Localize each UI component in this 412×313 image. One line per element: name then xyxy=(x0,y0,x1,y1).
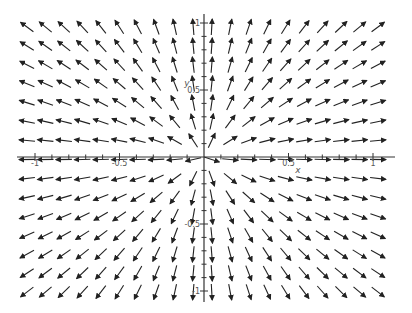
field-arrow xyxy=(210,190,213,206)
field-arrow xyxy=(315,213,329,220)
field-arrow xyxy=(94,79,107,88)
field-arrow xyxy=(243,192,255,203)
field-arrow xyxy=(153,58,160,72)
field-arrow xyxy=(172,76,178,91)
field-arrow xyxy=(150,117,163,127)
field-arrow xyxy=(246,266,252,281)
x-tick-label: 1 xyxy=(370,159,375,168)
field-arrow xyxy=(19,120,35,123)
field-arrow xyxy=(211,208,213,224)
field-arrow xyxy=(75,140,91,142)
field-arrow xyxy=(96,40,107,52)
field-arrow xyxy=(298,230,311,240)
field-arrow xyxy=(208,133,215,148)
field-arrow xyxy=(245,77,253,91)
field-arrow xyxy=(56,120,71,124)
field-arrow xyxy=(75,100,90,107)
field-arrow xyxy=(130,176,145,181)
field-arrow xyxy=(264,285,271,299)
x-tick-label: -0.5 xyxy=(112,159,128,168)
field-arrow xyxy=(20,61,34,68)
field-arrow xyxy=(296,139,312,142)
y-tick-label: 1 xyxy=(195,19,200,28)
field-arrow xyxy=(297,99,311,107)
field-arrow xyxy=(172,228,178,243)
field-arrow xyxy=(370,178,386,180)
field-arrow xyxy=(370,120,386,123)
field-arrow xyxy=(352,195,368,199)
field-arrow xyxy=(170,191,179,204)
field-arrow xyxy=(76,231,89,240)
field-arrow xyxy=(77,41,89,52)
field-arrow xyxy=(76,60,89,70)
field-arrow xyxy=(298,249,309,260)
field-arrow xyxy=(115,267,124,280)
field-arrow xyxy=(151,210,161,222)
field-arrow xyxy=(95,230,108,240)
field-arrow xyxy=(242,117,255,127)
field-arrow xyxy=(57,61,70,70)
field-arrow xyxy=(297,194,312,200)
field-arrow xyxy=(352,213,367,219)
field-arrow xyxy=(222,159,238,161)
field-arrow xyxy=(315,119,330,124)
x-axis-label: x xyxy=(294,165,301,175)
field-arrow xyxy=(244,97,254,109)
field-arrow xyxy=(280,78,292,89)
field-arrow xyxy=(223,136,237,145)
field-arrow xyxy=(352,80,367,87)
field-arrow xyxy=(227,209,233,224)
field-arrow xyxy=(334,213,349,219)
field-arrow xyxy=(115,40,125,53)
field-arrow xyxy=(21,287,34,297)
field-arrow xyxy=(19,196,35,200)
field-arrow xyxy=(263,266,271,280)
vector-field-plot: -1-0.50.5110.5-0.5-1xy xyxy=(0,0,412,313)
field-arrow xyxy=(228,57,232,72)
field-arrow xyxy=(170,116,180,128)
field-arrow xyxy=(134,285,141,299)
field-arrow xyxy=(224,173,236,183)
field-arrow xyxy=(132,211,144,222)
field-arrow xyxy=(244,210,254,223)
y-tick-label: -0.5 xyxy=(184,220,200,229)
field-arrow xyxy=(370,140,386,142)
field-arrow xyxy=(58,41,70,51)
field-arrow xyxy=(56,195,71,200)
field-arrow xyxy=(193,38,195,54)
field-arrow xyxy=(133,58,142,71)
field-arrow xyxy=(335,286,346,297)
field-arrow xyxy=(19,178,35,180)
field-arrow xyxy=(152,228,160,242)
field-arrow xyxy=(245,228,253,242)
field-arrow xyxy=(261,211,273,222)
field-arrow xyxy=(39,61,53,69)
field-arrow xyxy=(299,286,309,299)
field-arrow xyxy=(38,140,54,142)
field-arrow xyxy=(280,59,291,71)
field-arrow xyxy=(228,228,233,243)
field-arrow xyxy=(297,212,311,220)
field-arrow xyxy=(38,120,54,124)
field-arrow xyxy=(370,214,385,219)
field-arrow xyxy=(260,118,274,126)
field-arrow xyxy=(153,247,160,261)
field-arrow xyxy=(93,177,109,180)
field-arrow xyxy=(19,214,34,219)
field-arrow xyxy=(95,249,107,260)
field-arrow xyxy=(77,268,89,279)
field-arrow xyxy=(229,19,232,35)
field-arrow xyxy=(112,139,128,142)
field-arrow xyxy=(130,159,146,160)
field-arrow xyxy=(154,20,160,35)
field-arrow xyxy=(38,195,54,199)
field-arrow xyxy=(352,140,368,142)
field-arrow xyxy=(372,22,385,32)
field-arrow xyxy=(316,249,328,259)
field-arrow xyxy=(211,76,213,92)
field-arrow xyxy=(134,20,141,34)
field-arrow xyxy=(151,97,162,109)
field-arrow xyxy=(154,285,159,300)
field-arrow xyxy=(115,20,124,33)
field-arrow xyxy=(211,95,213,111)
